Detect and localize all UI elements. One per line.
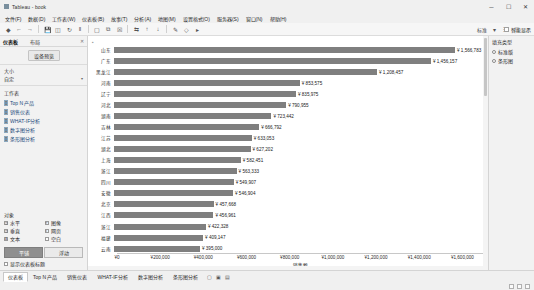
refresh-icon[interactable]: ↻ [65,25,73,34]
object-text[interactable]: A 文本 [4,235,43,242]
tableau-logo-icon[interactable]: ◆ [4,25,12,34]
bar[interactable] [114,157,241,163]
chart-bar-row[interactable]: 上海¥ 582,451 [90,156,484,165]
chart-bar-row[interactable]: 辽宁¥ 835,975 [90,90,484,99]
bar[interactable] [114,235,203,241]
bar[interactable] [114,47,455,53]
bar[interactable] [114,246,200,252]
object-horizontal[interactable]: ◫ 水平 [4,219,43,226]
menu-help[interactable]: 帮助(H) [269,15,288,22]
tab-bar-chart[interactable]: 条形图分析 [168,272,203,282]
menu-data[interactable]: 数据(D) [27,15,46,22]
chart-bar-row[interactable]: 四川¥ 549,907 [90,178,484,187]
tab-top-n-products[interactable]: Top N 产品 [28,272,62,282]
bar[interactable] [114,146,251,152]
chart-bar-row[interactable]: 河南¥ 853,575 [90,79,484,88]
bar[interactable] [114,224,206,230]
new-dashboard-icon[interactable]: ▣ [216,274,222,280]
list-item[interactable]: WHAT-IF分析 [4,116,83,125]
bar[interactable] [114,190,233,196]
chart-bar-row[interactable]: 湖南¥ 723,442 [90,112,484,121]
chart-bar-row[interactable]: 浙江¥ 563,333 [90,167,484,176]
bar[interactable] [114,91,296,97]
back-icon[interactable]: ← [15,25,23,34]
tab-dashboard[interactable]: 仪表板 [3,272,28,282]
close-pane-icon[interactable]: ✕ [80,38,84,44]
fit-icon[interactable] [525,284,530,289]
list-item[interactable]: Top N 产品 [4,98,83,107]
chart-bar-row[interactable]: 安徽¥ 546,904 [90,189,484,198]
fill-type-option-standard[interactable]: 标准版 [492,47,531,56]
data-source-icon[interactable] [509,284,514,289]
scrollbar-thumb[interactable] [484,38,487,96]
bar[interactable] [114,113,271,119]
canvas-vertical-scrollbar[interactable] [483,36,488,270]
show-dashboard-title-row[interactable]: 显示仪表板标题 [0,260,87,267]
menu-map[interactable]: 地图(M) [157,15,177,22]
object-webpage[interactable]: ⚭ 网页 [45,227,84,234]
menu-worksheet[interactable]: 工作表(W) [51,15,76,22]
bar[interactable] [114,102,286,108]
highlight-icon[interactable]: ✎ [171,25,179,34]
bar[interactable] [114,168,237,174]
swap-rows-columns-icon[interactable]: ⇆ [132,25,140,34]
show-labels-icon[interactable]: ▸ [193,25,201,34]
list-item[interactable]: 条形图分析 [4,134,83,143]
object-blank[interactable]: 空白 [45,235,84,242]
menu-window[interactable]: 窗口(N) [245,15,264,22]
bar[interactable] [114,179,234,185]
sort-ascending-icon[interactable]: ↑ [143,25,151,34]
tab-dashboard[interactable]: 仪表板 [3,38,18,45]
fill-type-option-bar[interactable]: 条形图 [492,56,531,65]
group-members-icon[interactable]: ◇ [182,25,190,34]
menu-format[interactable]: 设置格式(O) [182,15,211,22]
tab-what-if-analysis[interactable]: WHAT-IF分析 [92,272,132,282]
placement-tiled-button[interactable]: 平铺 [4,247,43,258]
bar[interactable] [114,58,431,64]
chart-bar-row[interactable]: 江西¥ 456,961 [90,211,484,220]
menu-story[interactable]: 故事(T) [110,15,128,22]
sheet-drag-handle[interactable]: ▪ [90,38,484,45]
minimize-icon[interactable]: ─ [483,0,500,13]
maximize-icon[interactable]: ☐ [500,0,517,13]
chart-bar-row[interactable]: 广东¥ 1,456,157 [90,57,484,66]
duplicate-icon[interactable]: ⧉ [104,25,112,34]
chart-bar-row[interactable]: 云南¥ 395,000 [90,244,484,253]
smart-show-toggle[interactable]: 智能显示 [504,26,531,33]
list-item[interactable]: 数字图分析 [4,125,83,134]
close-icon[interactable]: ✕ [517,0,534,13]
list-item[interactable]: 销售仪表 [4,107,83,116]
clear-sheet-icon[interactable]: ☒ [115,25,123,34]
menu-file[interactable]: 文件(F) [4,15,22,22]
chart-bar-row[interactable]: 吉林¥ 666,792 [90,123,484,132]
new-worksheet-icon[interactable]: ▢ [207,274,213,280]
object-vertical[interactable]: ◫ 垂直 [4,227,43,234]
chart-bar-row[interactable]: 浙江¥ 422,328 [90,222,484,231]
size-dropdown[interactable]: 自定 ▾ [4,74,83,83]
tab-layout[interactable]: 布局 [30,38,40,45]
chart-bar-row[interactable]: 山东¥ 1,566,783 [90,46,484,55]
chevron-down-icon[interactable]: ▾ [490,25,498,34]
bar[interactable] [114,124,259,130]
bar[interactable] [114,212,213,218]
bar[interactable] [114,80,300,86]
menu-server[interactable]: 服务器(S) [216,15,240,22]
device-preview-button[interactable]: 设备预览 [28,50,60,61]
new-story-icon[interactable]: ▤ [225,274,231,280]
bar[interactable] [114,69,377,75]
chart-bar-row[interactable]: 福建¥ 409,147 [90,233,484,242]
object-image[interactable]: ☀ 图像 [45,219,84,226]
save-icon[interactable]: 💾 [43,25,51,34]
chart-bar-row[interactable]: 河北¥ 790,955 [90,101,484,110]
new-worksheet-icon[interactable]: ▢ [93,25,101,34]
sort-descending-icon[interactable]: ↓ [154,25,162,34]
forward-icon[interactable]: → [26,25,34,34]
bar[interactable] [114,135,252,141]
menu-dashboard[interactable]: 仪表板(B) [81,15,105,22]
placement-floating-button[interactable]: 浮动 [44,247,83,258]
chart-bar-row[interactable]: 北京¥ 457,668 [90,200,484,209]
chart-bar-row[interactable]: 湖北¥ 627,202 [90,145,484,154]
chart-bar-row[interactable]: 江苏¥ 633,053 [90,134,484,143]
chart-bar-row[interactable]: 黑龙江¥ 1,208,457 [90,68,484,77]
grid-icon[interactable] [517,284,522,289]
